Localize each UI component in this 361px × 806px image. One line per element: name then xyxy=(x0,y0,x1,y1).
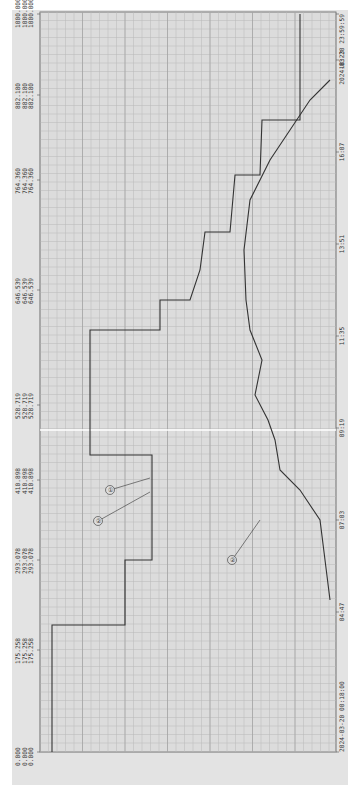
y-tick-label: 175.258 xyxy=(27,638,34,664)
y-tick-label: 528.719 xyxy=(27,393,34,419)
chart: 1000.0001000.0001000.000882.180882.18088… xyxy=(0,0,361,806)
chart-svg: 1000.0001000.0001000.000882.180882.18088… xyxy=(0,0,361,806)
x-tick-label: 13:51 xyxy=(338,234,345,253)
x-tick-label: 07:03 xyxy=(338,510,345,529)
y-tick-label: 293.078 xyxy=(27,548,34,574)
y-tick-label: 410.898 xyxy=(27,468,34,494)
annotation-1-label: ① xyxy=(108,486,113,493)
annotation-2a-label: ② xyxy=(96,517,101,524)
x-tick-label: 04:47 xyxy=(338,602,345,621)
x-tick-label: 09:19 xyxy=(338,418,345,437)
x-tick-label: 2024-03-20 00:18:00 xyxy=(338,681,345,752)
y-tick-label: 882.180 xyxy=(27,83,34,109)
y-tick-label: 0.000 xyxy=(27,747,34,766)
y-tick-label: 1000.000 xyxy=(27,0,34,28)
y-tick-label: 764.360 xyxy=(27,168,34,194)
y-tick-label: 646.539 xyxy=(27,278,34,304)
x-tick-label: 2024-03-20 23:59:59 xyxy=(338,14,345,85)
x-tick-label: 11:35 xyxy=(338,326,345,345)
annotation-2b-label: ② xyxy=(230,556,235,563)
x-tick-label: 16:07 xyxy=(338,142,345,161)
